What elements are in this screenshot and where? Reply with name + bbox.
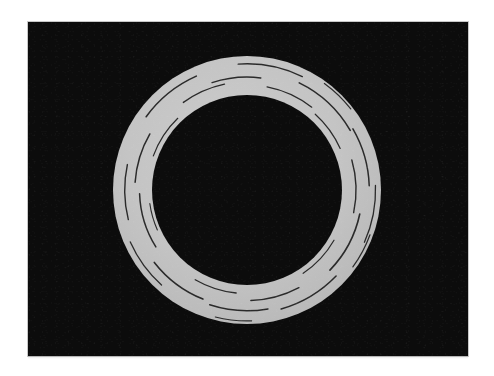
figure-root bbox=[0, 0, 494, 376]
page-edge-shadow bbox=[28, 356, 468, 359]
ring-inner-circle bbox=[152, 95, 342, 285]
image-plate bbox=[28, 22, 468, 356]
ring-shape bbox=[113, 56, 381, 324]
ring-diagram bbox=[28, 22, 468, 356]
